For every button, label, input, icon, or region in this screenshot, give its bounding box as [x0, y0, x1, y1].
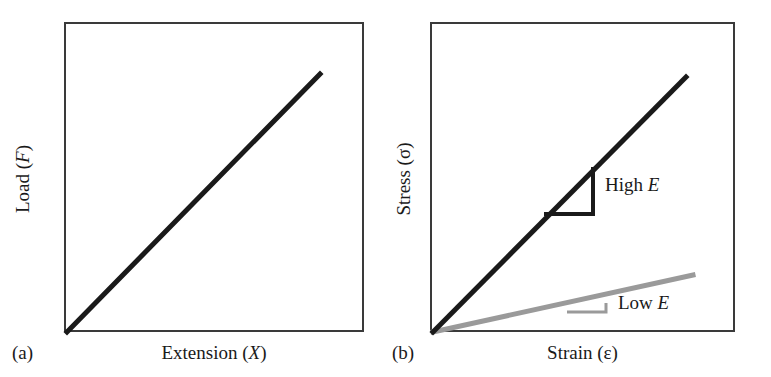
- panel-tag-b: (b): [392, 342, 414, 364]
- y-axis-label-a: Load (F): [12, 119, 34, 239]
- x-axis-label-b: Strain (ε): [430, 342, 735, 364]
- low-modulus-slope-triangle: [567, 303, 606, 312]
- y-axis-label-a-symbol: F: [12, 151, 33, 163]
- x-axis-label-a-symbol: X: [249, 342, 261, 363]
- x-axis-label-a-text: Extension (: [161, 342, 248, 363]
- plot-area-b: [432, 24, 737, 334]
- annotation-low-modulus: Low E: [618, 292, 669, 314]
- x-axis-label-a-close: ): [260, 342, 266, 363]
- plot-frame-b: [430, 22, 735, 332]
- panel-tag-a: (a): [12, 342, 33, 364]
- panel-a: Load (F) Extension (X) (a): [0, 0, 390, 377]
- x-axis-label-a: Extension (X): [64, 342, 364, 364]
- plot-frame-a: [64, 22, 364, 332]
- annotation-high-modulus-symbol: E: [648, 174, 660, 195]
- annotation-low-modulus-symbol: E: [658, 292, 670, 313]
- x-axis-label-b-symbol: ε: [604, 342, 612, 363]
- high-modulus-slope-triangle: [544, 167, 593, 214]
- y-axis-label-a-text: Load (: [12, 163, 33, 213]
- x-axis-label-b-close: ): [612, 342, 618, 363]
- y-axis-label-b-text: Stress (: [393, 159, 414, 215]
- y-axis-label-b: Stress (σ): [393, 119, 415, 239]
- y-axis-label-a-close: ): [12, 145, 33, 151]
- panel-b: High E Low E Stress (σ) Strain (ε) (b): [390, 0, 771, 377]
- annotation-high-modulus-prefix: High: [605, 174, 648, 195]
- y-axis-label-b-close: ): [393, 142, 414, 148]
- annotation-low-modulus-prefix: Low: [618, 292, 658, 313]
- load-extension-line: [67, 74, 320, 332]
- figure-container: Load (F) Extension (X) (a) High E: [0, 0, 771, 377]
- x-axis-label-b-text: Strain (: [547, 342, 603, 363]
- y-axis-label-b-symbol: σ: [393, 149, 414, 159]
- plot-area-a: [66, 24, 366, 334]
- annotation-high-modulus: High E: [605, 174, 659, 196]
